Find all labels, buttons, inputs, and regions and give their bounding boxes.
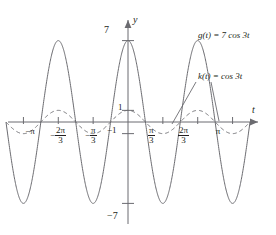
t-axis-label: t: [252, 105, 255, 115]
fraction-numerator: π: [90, 126, 97, 135]
x-tick-label-minus-2pi-over-3: −2π3: [50, 126, 66, 146]
y-tick-label-1: 1: [118, 103, 123, 112]
x-tick-label-pi: π: [208, 127, 228, 136]
fraction-denominator: 3: [55, 135, 66, 145]
y-tick-label-minus-7: −7: [107, 211, 118, 221]
fraction-2pi-3-positive: 2π3: [178, 126, 189, 146]
fraction-numerator: 2π: [55, 126, 66, 135]
cosine-graph-figure: 7 1 −1 −7 y t −π π −2π3 −π3 π3 2π3 g(t) …: [0, 0, 276, 235]
fraction-denominator: 3: [178, 135, 189, 145]
g-label-text: g(t) = 7 cos 3t: [198, 30, 250, 40]
x-tick-label-2pi-over-3: 2π3: [178, 126, 189, 146]
x-tick-label-minus-pi: −π: [20, 127, 40, 136]
fraction-denominator: 3: [90, 135, 97, 145]
x-tick-label-pi-over-3: π3: [148, 126, 155, 146]
y-tick-label-7: 7: [104, 25, 109, 35]
axes-group: [8, 20, 258, 224]
fraction-2pi-3: 2π3: [55, 126, 66, 146]
curve-label-g: g(t) = 7 cos 3t: [198, 31, 250, 40]
x-tick-label-minus-pi-over-3: −π3: [85, 126, 97, 146]
y-tick-label-minus-1: −1: [107, 126, 117, 135]
y-axis-arrowhead: [125, 20, 132, 28]
fraction-denominator: 3: [148, 135, 155, 145]
fraction-numerator: 2π: [178, 126, 189, 135]
y-axis-label: y: [133, 15, 137, 25]
fraction-numerator: π: [148, 126, 155, 135]
fraction-pi-3: π3: [90, 126, 97, 146]
k-label-text: k(t) = cos 3t: [198, 71, 242, 81]
curve-label-k: k(t) = cos 3t: [198, 72, 242, 81]
fraction-pi-3-positive: π3: [148, 126, 155, 146]
t-axis-arrowhead: [250, 119, 258, 126]
